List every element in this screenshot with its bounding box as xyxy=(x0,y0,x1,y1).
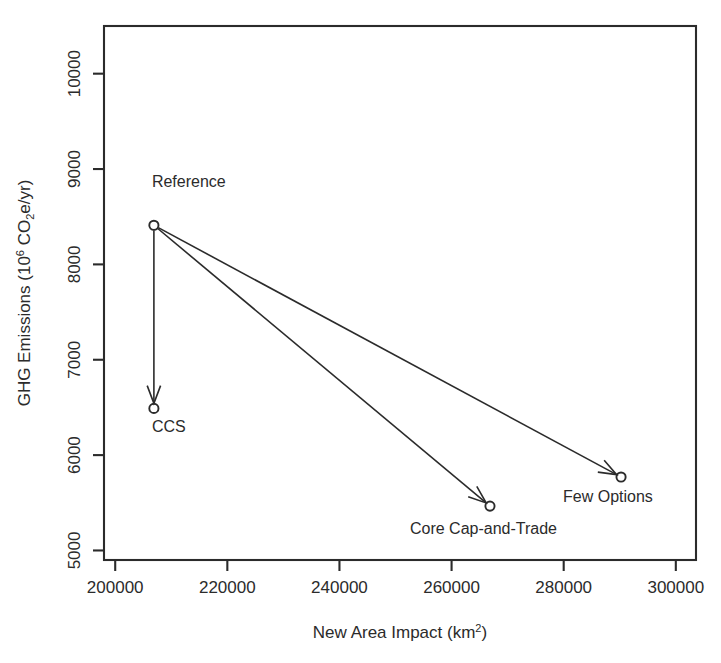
x-axis-title-base: New Area Impact (km xyxy=(313,623,476,642)
svg-text:GHG Emissions (106 CO2e/yr): GHG Emissions (106 CO2e/yr) xyxy=(14,180,36,407)
ghg-emissions-vs-area-impact-scatter-plot: 200000220000240000260000280000300000 500… xyxy=(0,0,721,663)
x-axis-title-tail: ) xyxy=(481,623,487,642)
y-axis-title: GHG Emissions (106 CO2e/yr) xyxy=(14,180,36,407)
y-tick-label: 9000 xyxy=(65,150,84,188)
y-axis-title-part1: GHG Emissions (10 xyxy=(15,256,34,406)
plot-background xyxy=(0,0,721,663)
data-point-label: Few Options xyxy=(563,488,653,505)
x-tick-label: 200000 xyxy=(87,578,144,597)
y-axis-title-part3: e/yr) xyxy=(15,180,34,214)
y-tick-label: 7000 xyxy=(65,341,84,379)
x-tick-label: 260000 xyxy=(423,578,480,597)
y-tick-label: 5000 xyxy=(65,532,84,570)
y-tick-label: 8000 xyxy=(65,245,84,283)
y-tick-label-group: 8000 xyxy=(65,245,84,283)
data-point-label: CCS xyxy=(152,418,186,435)
data-point-label: Core Cap-and-Trade xyxy=(410,520,557,537)
x-tick-label: 280000 xyxy=(535,578,592,597)
data-point-label: Reference xyxy=(152,173,226,190)
x-tick-label: 220000 xyxy=(199,578,256,597)
y-tick-label-group: 6000 xyxy=(65,436,84,474)
y-tick-label: 6000 xyxy=(65,436,84,474)
x-axis-title: New Area Impact (km2) xyxy=(313,622,487,642)
y-tick-label-group: 10000 xyxy=(65,50,84,97)
y-axis-title-part2: CO xyxy=(15,220,34,250)
y-tick-label: 10000 xyxy=(65,50,84,97)
y-tick-label-group: 5000 xyxy=(65,532,84,570)
svg-text:New Area Impact (km2): New Area Impact (km2) xyxy=(313,622,487,642)
y-tick-label-group: 9000 xyxy=(65,150,84,188)
chart-figure: 200000220000240000260000280000300000 500… xyxy=(0,0,721,663)
x-tick-label: 240000 xyxy=(311,578,368,597)
x-tick-label: 300000 xyxy=(647,578,704,597)
y-tick-label-group: 7000 xyxy=(65,341,84,379)
